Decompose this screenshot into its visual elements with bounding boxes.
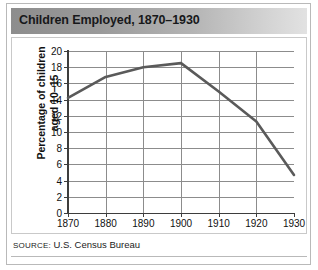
x-axis-tick-label: 1910 — [208, 218, 230, 229]
x-axis-tick-mark — [143, 213, 144, 217]
source-text: U.S. Census Bureau — [54, 239, 141, 250]
x-axis-tick-mark — [294, 213, 295, 217]
y-axis-tick-label: 4 — [56, 175, 62, 186]
y-axis-tick-label: 20 — [51, 46, 62, 57]
x-axis-tick-label: 1890 — [132, 218, 154, 229]
y-axis-tick-label: 16 — [51, 78, 62, 89]
chart-plot-frame: Percentage of children aged 10–15 024681… — [11, 37, 307, 234]
x-axis-tick-label: 1870 — [57, 218, 79, 229]
x-axis-tick-mark — [219, 213, 220, 217]
x-axis-tick-label: 1920 — [245, 218, 267, 229]
source-divider — [11, 256, 307, 257]
data-series-line — [68, 51, 294, 213]
chart-figure: Children Employed, 1870–1930 Percentage … — [6, 3, 311, 265]
source-note: SOURCE: U.S. Census Bureau — [13, 239, 140, 250]
y-axis-tick-label: 6 — [56, 159, 62, 170]
y-axis-tick-label: 18 — [51, 62, 62, 73]
x-axis-tick-label: 1900 — [170, 218, 192, 229]
source-label: SOURCE: — [13, 241, 51, 250]
x-axis-tick-label: 1880 — [95, 218, 117, 229]
x-axis-tick-mark — [68, 213, 69, 217]
plot-area: 02468101214161820 1870188018901900191019… — [68, 51, 294, 213]
x-axis-tick-label: 1930 — [283, 218, 305, 229]
y-axis-tick-label: 14 — [51, 94, 62, 105]
y-axis-tick-label: 12 — [51, 110, 62, 121]
x-axis-tick-mark — [181, 213, 182, 217]
y-axis-tick-label: 0 — [56, 208, 62, 219]
y-axis-tick-label: 2 — [56, 191, 62, 202]
y-axis-title-line1: Percentage of children — [35, 46, 48, 159]
y-axis-tick-label: 8 — [56, 143, 62, 154]
y-axis-tick-label: 10 — [51, 127, 62, 138]
x-axis-tick-mark — [256, 213, 257, 217]
x-axis-tick-mark — [106, 213, 107, 217]
